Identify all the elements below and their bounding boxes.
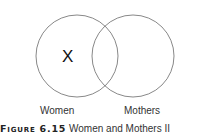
figure-caption: Figure 6.15 Women and Mothers II xyxy=(0,123,210,134)
venn-diagram xyxy=(0,0,210,120)
mothers-circle xyxy=(92,15,174,97)
women-label: Women xyxy=(40,105,74,116)
figure-tag: Figure 6.15 xyxy=(0,123,66,134)
x-marker: X xyxy=(62,47,73,67)
women-circle xyxy=(36,15,118,97)
mothers-label: Mothers xyxy=(124,105,160,116)
figure-title: Women and Mothers II xyxy=(69,123,170,134)
